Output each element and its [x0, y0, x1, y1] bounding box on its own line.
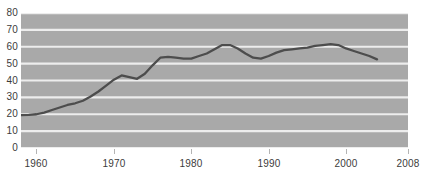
x-tick-mark — [408, 149, 409, 154]
y-tick-label: 70 — [0, 25, 18, 35]
y-tick-label: 60 — [0, 42, 18, 52]
y-tick-label: 30 — [0, 92, 18, 102]
y-tick-label: 40 — [0, 76, 18, 86]
x-tick-mark — [269, 149, 270, 154]
cropped-header-text-label: . . — [6, 0, 14, 2]
x-tick-label: 1970 — [94, 159, 134, 169]
x-tick-label: 2008 — [388, 159, 426, 169]
cropped-header-text: . . — [0, 0, 426, 7]
line-chart: . . 80706050403020100 196019701980199020… — [0, 0, 426, 174]
x-tick-label: 2000 — [326, 159, 366, 169]
y-tick-label: 80 — [0, 8, 18, 18]
y-tick-label: 20 — [0, 109, 18, 119]
x-tick-label: 1990 — [249, 159, 289, 169]
plot-canvas — [21, 13, 408, 148]
plot-area — [21, 13, 408, 148]
x-tick-mark — [36, 149, 37, 154]
x-tick-mark — [114, 149, 115, 154]
y-tick-label: 0 — [0, 143, 18, 153]
y-tick-label: 10 — [0, 126, 18, 136]
x-tick-label: 1980 — [171, 159, 211, 169]
x-tick-label: 1960 — [16, 159, 56, 169]
y-tick-label: 50 — [0, 59, 18, 69]
x-tick-mark — [346, 149, 347, 154]
x-tick-mark — [191, 149, 192, 154]
gridlines — [21, 13, 408, 148]
